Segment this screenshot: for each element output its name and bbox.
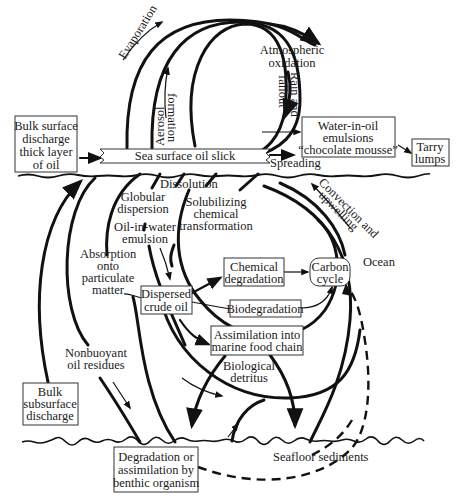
dissolution-label: Dissolution (160, 177, 218, 191)
bulk-subsurface-box: Bulk subsurface discharge (23, 383, 78, 425)
nonbuoyant-curve-lower (100, 378, 140, 442)
particulate-sink-curve (133, 297, 175, 442)
benthic-line3: benthic organism (113, 476, 199, 490)
dispersed-crude-oil-box: Dispersed crude oil (141, 286, 192, 314)
bulk-surface-box: Bulk surface discharge thick layer of oi… (14, 116, 78, 172)
emulsion-small-arrow (160, 248, 170, 279)
globular-label2: dispersion (117, 202, 169, 216)
assimilation-box: Assimilation into marine food chain (211, 326, 303, 355)
ocean-label: Ocean (363, 255, 396, 269)
spreading-label: Spreading (270, 156, 321, 170)
convection-label1: Convection and (316, 175, 382, 241)
dispersed-line2: crude oil (144, 300, 189, 314)
bulk-surface-line3: thick layer (19, 145, 73, 159)
emulsions-box: Water-in-oil emulsions “chocolate mousse… (298, 117, 398, 157)
seafloor-line (22, 437, 424, 445)
bulk-surface-line1: Bulk surface (14, 119, 78, 133)
nonbuoyant-curve (67, 178, 95, 345)
chemical-line2: degradation (224, 272, 284, 286)
absorption-label4: matter (92, 283, 125, 297)
solubilizing-label3: transformation (179, 219, 253, 233)
rain-label2: fallout (276, 75, 290, 108)
carbon-cycle-box: Carbon cycle (310, 258, 350, 286)
tarry-line2: lumps (415, 152, 446, 166)
atmospheric-label2: oxidation (268, 56, 316, 70)
oil-in-water-label2: emulsion (122, 232, 169, 246)
biodegradation-box: Biodegradation (226, 300, 304, 317)
assimilation-to-seafloor-arrow-left (192, 356, 225, 425)
nonbuoyant-label2: oil residues (67, 358, 124, 372)
aerosol-label1: Aerosol (153, 106, 167, 146)
benthic-line1: Degradation or (118, 450, 194, 464)
sea-surface-slick: Sea surface oil slick (100, 149, 270, 163)
dispersed-line1: Dispersed (141, 287, 192, 301)
biological-label2: detritus (230, 371, 268, 385)
slick-label: Sea surface oil slick (135, 149, 236, 163)
atmospheric-label1: Atmospheric (260, 43, 325, 57)
biodegradation-label: Biodegradation (226, 302, 304, 316)
evaporation-label: Evaporation (116, 2, 161, 62)
carbon-line2: cycle (317, 272, 344, 286)
bulk-surface-line4: of oil (33, 158, 60, 172)
benthic-line2: assimilation by (118, 463, 195, 477)
oil-fate-diagram: Bulk surface discharge thick layer of oi… (0, 0, 457, 498)
benthic-box: Degradation or assimilation by benthic o… (113, 447, 199, 492)
sea-surface-line (18, 174, 430, 178)
emulsion-to-tarry-arrow (398, 145, 411, 153)
solubilizing-curve-lower (171, 245, 174, 266)
assimilation-line2: marine food chain (212, 340, 304, 354)
tarry-lumps-box: Tarry lumps (412, 139, 449, 166)
bulk-surface-line2: discharge (22, 132, 70, 146)
bulk-subsurface-line3: discharge (26, 409, 74, 423)
chemical-degradation-box: Chemical degradation (224, 258, 284, 286)
emulsions-line3: “chocolate mousse” (298, 143, 398, 157)
aerosol-label2: formation (165, 93, 179, 143)
seafloor-rise-curve (232, 400, 264, 441)
seafloor-label: Seafloor sediments (273, 450, 369, 464)
dispersed-to-chemical-arrow (192, 278, 220, 293)
